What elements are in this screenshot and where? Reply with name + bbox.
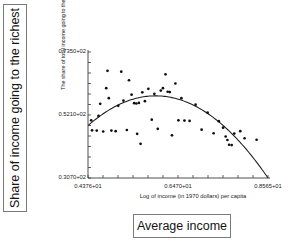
scatter-point: [171, 134, 174, 137]
scatter-point: [162, 87, 165, 90]
plot-canvas: [30, 0, 300, 212]
scatter-point: [156, 127, 159, 130]
scatter-point: [243, 137, 246, 140]
scatter-point: [150, 118, 153, 121]
scatter-point: [206, 111, 209, 114]
scatter-point: [217, 120, 220, 123]
scatter-point: [99, 102, 102, 105]
scatter-point: [136, 132, 139, 135]
scatter-point: [255, 138, 258, 141]
scatter-chart-figure: The share of total income going to the t…: [30, 0, 300, 212]
scatter-point: [159, 89, 162, 92]
left-annotation-box: Share of income going to the richest: [3, 4, 27, 212]
scatter-point: [224, 135, 227, 138]
scatter-point: [139, 143, 142, 146]
scatter-point: [153, 92, 156, 95]
scatter-point: [130, 93, 133, 96]
bottom-annotation-box: Average income: [133, 214, 231, 238]
axis-ticks: [88, 52, 268, 178]
scatter-point: [233, 132, 236, 135]
scatter-point: [128, 79, 131, 82]
scatter-point: [90, 119, 93, 122]
scatter-point: [95, 129, 98, 132]
scatter-point: [135, 102, 138, 105]
scatter-point: [120, 70, 123, 73]
scatter-point: [239, 130, 242, 133]
scatter-point: [212, 132, 215, 135]
scatter-point: [228, 143, 231, 146]
scatter-point: [141, 91, 144, 94]
scatter-point: [147, 87, 150, 90]
scatter-point: [114, 130, 117, 133]
scatter-point: [102, 130, 105, 133]
scatter-point: [230, 144, 233, 147]
quadratic-fit-curve: [88, 96, 268, 178]
scatter-point: [174, 82, 177, 85]
axis-lines: [88, 50, 270, 178]
scatter-point: [188, 120, 191, 123]
left-annotation-label: Share of income going to the richest: [8, 8, 22, 208]
scatter-point: [138, 102, 141, 105]
scatter-point: [200, 128, 203, 131]
scatter-point: [105, 87, 108, 90]
scatter-point: [226, 139, 229, 142]
scatter-point: [222, 126, 225, 129]
scatter-point: [107, 97, 110, 100]
scatter-point: [110, 129, 113, 132]
scatter-point: [144, 100, 147, 103]
scatter-point: [164, 73, 167, 76]
scatter-point: [91, 129, 94, 132]
scatter-point: [97, 115, 100, 118]
bottom-annotation-label: Average income: [137, 219, 227, 233]
scatter-point: [168, 91, 171, 94]
scatter-point: [177, 119, 180, 122]
scatter-point: [125, 129, 128, 132]
scatter-point: [122, 99, 125, 102]
scatter-point: [180, 97, 183, 100]
scatter-point: [106, 69, 109, 72]
scatter-point: [117, 105, 120, 108]
scatter-point: [194, 103, 197, 106]
scatter-point: [183, 119, 186, 122]
